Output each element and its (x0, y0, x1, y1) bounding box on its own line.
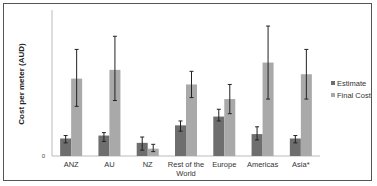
bar-chart: ANZAUNZRest of theWorldEuropeAmericasAsi… (0, 0, 377, 186)
x-tick-label: Europe (212, 160, 236, 169)
bars (60, 63, 312, 156)
x-tick-label: Rest of theWorld (168, 160, 204, 178)
x-tick-label: Asia* (292, 160, 310, 169)
y-tick-zero: 0 (42, 153, 46, 159)
category-labels: ANZAUNZRest of theWorldEuropeAmericasAsi… (64, 160, 310, 178)
legend-swatch (331, 81, 335, 85)
x-tick-label: ANZ (64, 160, 79, 169)
bar-estimate (213, 117, 224, 156)
legend-label: Estimate (337, 79, 366, 88)
x-tick-label: Americas (247, 160, 279, 169)
y-axis-label: Cost per meter (AUD) (17, 43, 26, 125)
x-tick-label: NZ (143, 160, 153, 169)
legend-label: Final Cost (337, 91, 372, 100)
x-tick-label: AU (104, 160, 114, 169)
legend: EstimateFinal Cost (331, 79, 372, 100)
legend-swatch (331, 93, 335, 97)
